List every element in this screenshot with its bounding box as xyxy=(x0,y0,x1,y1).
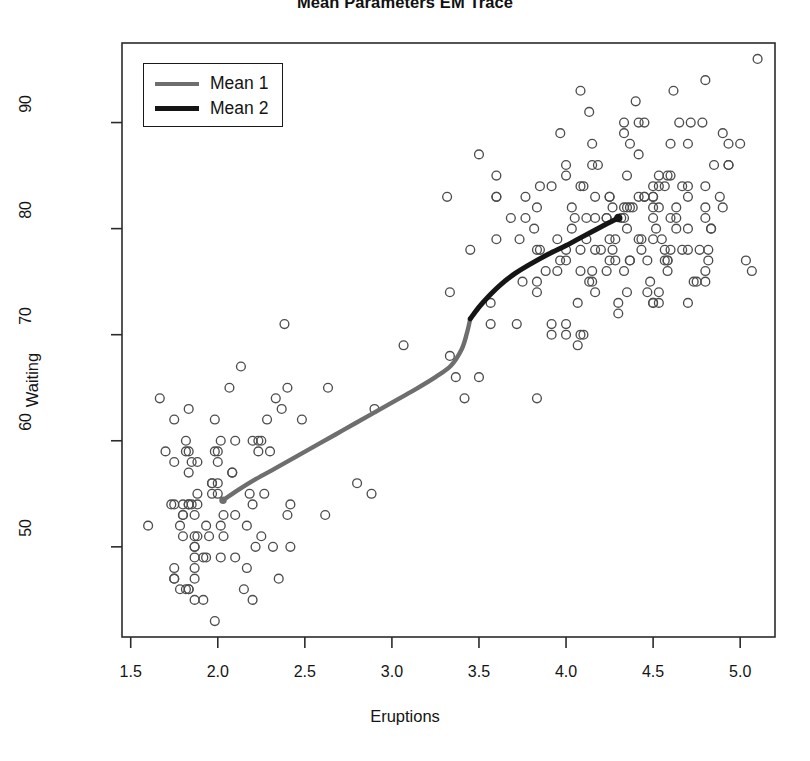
x-axis-title: Eruptions xyxy=(0,707,810,726)
legend-item-mean-1: Mean 1 xyxy=(144,70,282,97)
x-tick-label: 3.0 xyxy=(362,663,422,681)
y-tick-label: 60 xyxy=(17,413,35,469)
x-tick-label: 1.5 xyxy=(101,663,161,681)
x-tick-label: 4.5 xyxy=(623,663,683,681)
x-axis-ticks xyxy=(131,637,740,648)
x-tick-label: 2.5 xyxy=(275,663,335,681)
x-tick-label: 3.5 xyxy=(449,663,509,681)
x-tick-label: 4.0 xyxy=(536,663,596,681)
legend-label-mean-2: Mean 2 xyxy=(210,98,268,119)
y-axis-ticks xyxy=(111,123,122,547)
y-tick-label: 90 xyxy=(17,95,35,151)
y-tick-label: 50 xyxy=(17,519,35,575)
scatter-plot-canvas xyxy=(0,0,810,761)
chart-figure: Mean Parameters EM Trace Mean 1 Mean 2 E… xyxy=(0,0,810,761)
mean-1-trace-line xyxy=(219,319,470,504)
scatter-points-layer xyxy=(144,55,762,626)
y-tick-label: 80 xyxy=(17,201,35,257)
x-tick-label: 2.0 xyxy=(188,663,248,681)
plot-frame xyxy=(122,43,775,637)
legend-item-mean-2: Mean 2 xyxy=(144,95,282,122)
y-tick-label: 70 xyxy=(17,307,35,363)
legend-label-mean-1: Mean 1 xyxy=(210,73,268,94)
x-tick-label: 5.0 xyxy=(710,663,770,681)
legend-line-swatch-mean-2 xyxy=(155,106,199,111)
legend-line-swatch-mean-1 xyxy=(155,82,199,86)
legend: Mean 1 Mean 2 xyxy=(143,63,283,127)
